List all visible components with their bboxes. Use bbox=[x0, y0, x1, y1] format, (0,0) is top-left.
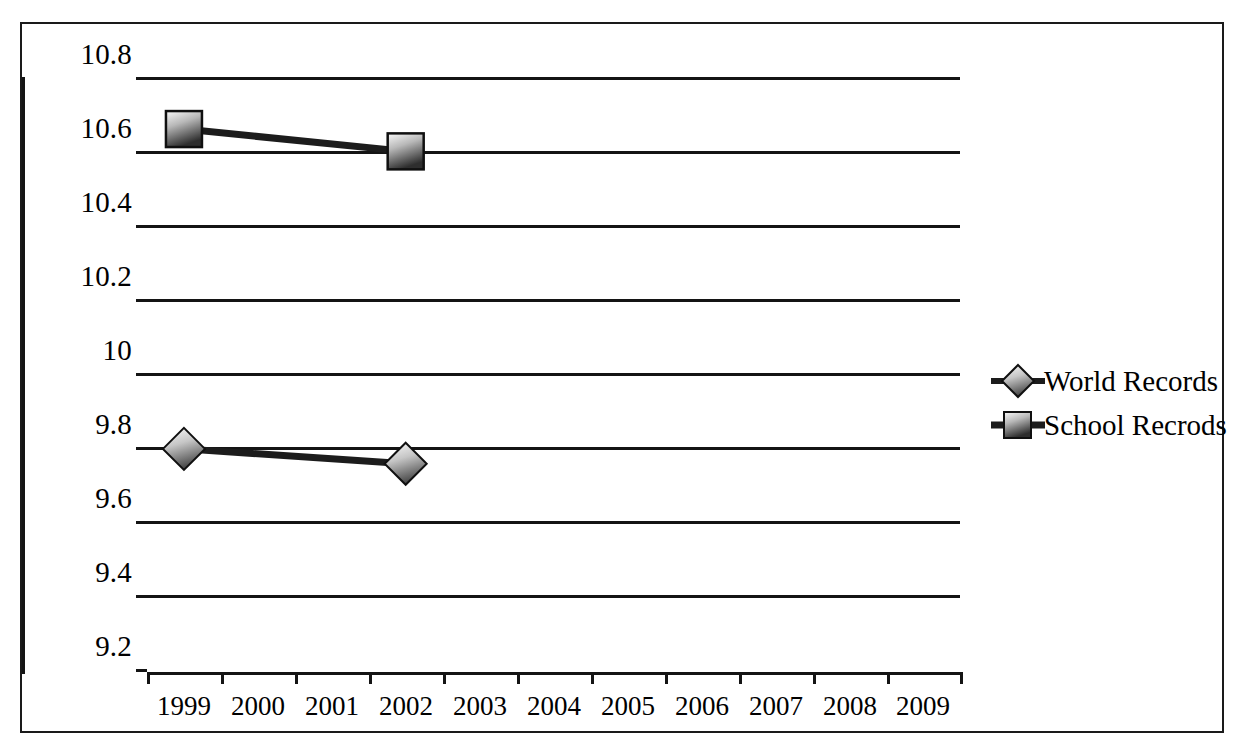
y-tick-label: 10 bbox=[103, 336, 132, 365]
x-axis-tick bbox=[295, 672, 298, 684]
x-axis-tick bbox=[591, 672, 594, 684]
y-axis-tick bbox=[136, 447, 147, 450]
x-axis-tick bbox=[369, 672, 372, 684]
gridline bbox=[147, 225, 960, 228]
chart-container: 10.8 10.6 10.4 10.2 10 9.8 9.6 9.4 9.2 bbox=[0, 0, 1245, 750]
chart-frame: 10.8 10.6 10.4 10.2 10 9.8 9.6 9.4 9.2 bbox=[20, 22, 1224, 733]
x-tick-label: 2001 bbox=[305, 692, 359, 720]
x-tick-label: 2006 bbox=[675, 692, 729, 720]
y-axis-labels: 10.8 10.6 10.4 10.2 10 9.8 9.6 9.4 9.2 bbox=[22, 24, 132, 724]
gridline bbox=[147, 373, 960, 376]
gridline bbox=[147, 77, 960, 80]
gridline bbox=[147, 595, 960, 598]
legend-label: School Recrods bbox=[1044, 410, 1227, 440]
x-axis-tick bbox=[443, 672, 446, 684]
y-axis-line bbox=[22, 77, 25, 674]
legend-item-school-records[interactable]: School Recrods bbox=[990, 403, 1240, 447]
y-tick-label: 10.6 bbox=[80, 114, 132, 143]
y-tick-label: 9.4 bbox=[95, 558, 132, 587]
y-axis-tick bbox=[136, 373, 147, 376]
y-tick-label: 10.2 bbox=[80, 262, 132, 291]
x-tick-label: 2002 bbox=[379, 692, 433, 720]
y-axis-tick bbox=[136, 595, 147, 598]
plot-area bbox=[147, 77, 960, 672]
x-axis-tick bbox=[813, 672, 816, 684]
y-axis-tick bbox=[136, 299, 147, 302]
legend-label: World Records bbox=[1044, 366, 1218, 396]
square-marker-icon bbox=[990, 405, 1046, 445]
x-axis-tick bbox=[739, 672, 742, 684]
y-tick-label: 10.8 bbox=[80, 40, 132, 69]
legend-item-world-records[interactable]: World Records bbox=[990, 359, 1240, 403]
y-tick-label: 10.4 bbox=[80, 188, 132, 217]
x-axis-line bbox=[147, 672, 961, 675]
gridline bbox=[147, 447, 960, 450]
x-tick-label: 2005 bbox=[601, 692, 655, 720]
y-axis-tick bbox=[136, 151, 147, 154]
x-tick-label: 2008 bbox=[823, 692, 877, 720]
x-tick-label: 2003 bbox=[453, 692, 507, 720]
gridline bbox=[147, 521, 960, 524]
y-axis-tick bbox=[136, 77, 147, 80]
y-tick-label: 9.8 bbox=[95, 410, 132, 439]
y-axis-tick bbox=[136, 225, 147, 228]
x-tick-label: 2000 bbox=[231, 692, 285, 720]
y-axis-tick bbox=[136, 669, 147, 672]
diamond-marker-icon bbox=[990, 361, 1046, 401]
x-tick-label: 2007 bbox=[749, 692, 803, 720]
gridline bbox=[147, 151, 960, 154]
y-tick-label: 9.2 bbox=[95, 632, 132, 661]
legend: World Records School Recrods bbox=[990, 359, 1240, 447]
x-axis-tick bbox=[517, 672, 520, 684]
x-axis-tick bbox=[960, 672, 963, 684]
x-axis-tick bbox=[665, 672, 668, 684]
x-axis-tick bbox=[221, 672, 224, 684]
x-tick-label: 1999 bbox=[157, 692, 211, 720]
gridline bbox=[147, 299, 960, 302]
y-axis-tick bbox=[136, 521, 147, 524]
x-tick-label: 2009 bbox=[896, 692, 950, 720]
x-axis-tick bbox=[887, 672, 890, 684]
x-tick-label: 2004 bbox=[527, 692, 581, 720]
y-tick-label: 9.6 bbox=[95, 484, 132, 513]
x-axis-tick bbox=[147, 672, 150, 684]
